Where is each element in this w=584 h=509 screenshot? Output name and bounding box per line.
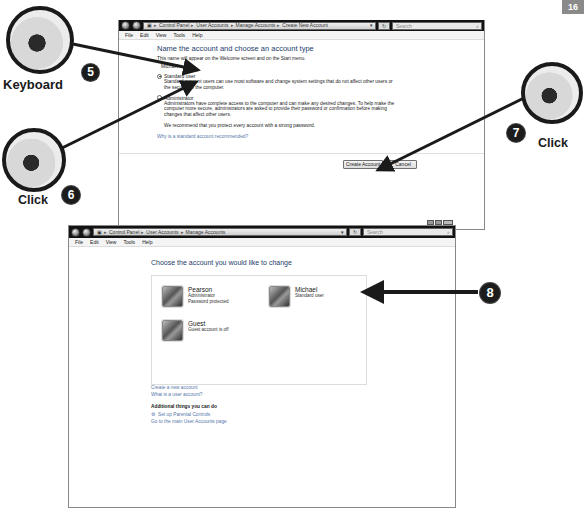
step-8-badge: 8	[480, 283, 500, 303]
step-7-badge: 7	[507, 124, 525, 142]
step-6-label: Click	[18, 193, 48, 207]
arrow-6	[62, 82, 196, 148]
step-7-label: Click	[538, 136, 568, 150]
keyboard-photo-icon	[6, 6, 74, 74]
step-6-badge: 6	[62, 186, 80, 204]
step-5-label: Keyboard	[3, 77, 63, 92]
mouse-click-photo-icon	[2, 128, 66, 192]
mouse-click-photo-icon	[521, 62, 583, 124]
step-5-badge: 5	[82, 64, 99, 81]
